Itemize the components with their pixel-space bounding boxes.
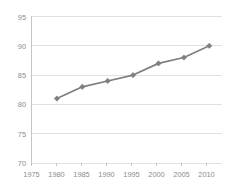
data-point-1980	[54, 96, 59, 101]
chart-canvas: 95 90 85 80 75 70 1975 1980 1985 1990 19…	[0, 0, 231, 193]
x-tick-label-2005: 2005	[173, 170, 189, 179]
gridlines	[31, 17, 222, 164]
series-markers	[54, 43, 212, 101]
line-chart: 95 90 85 80 75 70 1975 1980 1985 1990 19…	[0, 0, 231, 193]
data-series-1	[54, 43, 212, 101]
data-point-2005	[181, 55, 186, 60]
y-tick-label-85: 85	[18, 71, 26, 80]
y-tick-label-80: 80	[18, 100, 26, 109]
y-tick-label-95: 95	[18, 13, 26, 22]
x-tick-label-2000: 2000	[148, 170, 164, 179]
data-point-2010	[207, 43, 212, 48]
x-tick-label-1975: 1975	[23, 170, 39, 179]
x-tick-label-2010: 2010	[198, 170, 214, 179]
x-tick-label-1990: 1990	[98, 170, 114, 179]
data-point-2000	[156, 61, 161, 66]
x-tick-label-1985: 1985	[73, 170, 89, 179]
data-point-1985	[80, 84, 85, 89]
x-tick-label-1995: 1995	[123, 170, 139, 179]
x-axis-tick-labels: 1975 1980 1985 1990 1995 2000 2005 2010	[23, 170, 214, 179]
x-axis-ticks	[32, 163, 207, 166]
y-tick-label-75: 75	[18, 130, 26, 139]
data-point-1990	[105, 78, 110, 83]
x-tick-label-1980: 1980	[48, 170, 64, 179]
y-tick-label-70: 70	[18, 159, 26, 168]
y-tick-label-90: 90	[18, 42, 26, 51]
y-axis-tick-labels: 95 90 85 80 75 70	[18, 13, 26, 169]
data-point-1995	[131, 73, 136, 78]
